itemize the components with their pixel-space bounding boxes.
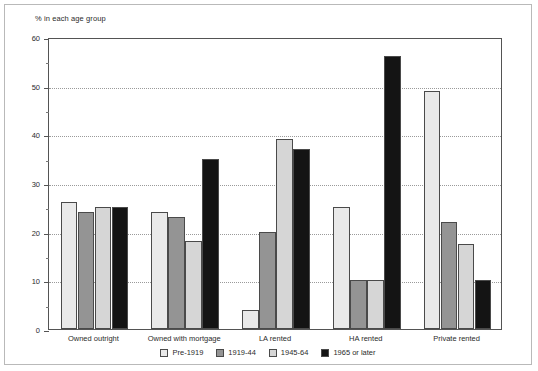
legend-label: 1919-44 <box>228 348 256 357</box>
y-axis-tick <box>44 88 49 89</box>
y-axis-minor-tick <box>46 161 49 162</box>
y-axis-tick <box>44 136 49 137</box>
bar <box>424 91 441 329</box>
y-axis-minor-tick <box>46 209 49 210</box>
legend-item[interactable]: 1965 or later <box>321 348 375 357</box>
bar <box>185 241 202 329</box>
y-axis-tick-label: 50 <box>18 82 40 91</box>
bar <box>350 280 367 329</box>
bar <box>441 222 458 329</box>
bar <box>384 56 401 329</box>
bar <box>276 139 293 329</box>
y-axis-tick <box>44 39 49 40</box>
bar <box>475 280 492 329</box>
y-axis-tick-label: 40 <box>18 131 40 140</box>
y-axis-tick <box>44 185 49 186</box>
y-axis-minor-tick <box>46 307 49 308</box>
bar <box>202 159 219 329</box>
bar <box>78 212 95 329</box>
bar <box>112 207 129 329</box>
x-axis-category-label: Owned outright <box>68 334 119 343</box>
bar <box>61 202 78 329</box>
chart-figure: % in each age group Pre-19191919-441945-… <box>4 4 532 365</box>
y-axis-tick-label: 20 <box>18 228 40 237</box>
y-axis-tick-label: 0 <box>18 326 40 335</box>
bar <box>293 149 310 329</box>
legend-item[interactable]: 1945-64 <box>269 348 309 357</box>
bar <box>95 207 112 329</box>
x-axis-category-label: Private rented <box>433 334 480 343</box>
plot-area <box>48 38 502 330</box>
legend-label: Pre-1919 <box>172 348 203 357</box>
y-axis-tick-label: 30 <box>18 180 40 189</box>
legend-swatch-icon <box>321 349 329 357</box>
legend-label: 1965 or later <box>333 348 375 357</box>
y-axis-tick <box>44 331 49 332</box>
legend-swatch-icon <box>160 349 168 357</box>
bar <box>367 280 384 329</box>
y-axis-minor-tick <box>46 63 49 64</box>
legend-swatch-icon <box>216 349 224 357</box>
bar <box>242 310 259 329</box>
y-axis-tick-label: 10 <box>18 277 40 286</box>
x-axis-category-label: LA rented <box>259 334 291 343</box>
chart-legend: Pre-19191919-441945-641965 or later <box>5 348 531 357</box>
y-axis-title: % in each age group <box>35 14 106 23</box>
legend-label: 1945-64 <box>281 348 309 357</box>
bar <box>333 207 350 329</box>
y-axis-minor-tick <box>46 258 49 259</box>
bar <box>168 217 185 329</box>
y-axis-minor-tick <box>46 112 49 113</box>
y-axis-tick <box>44 234 49 235</box>
y-axis-tick <box>44 282 49 283</box>
y-axis-tick-label: 60 <box>18 34 40 43</box>
legend-item[interactable]: Pre-1919 <box>160 348 203 357</box>
x-axis-category-label: HA rented <box>349 334 382 343</box>
bar <box>458 244 475 329</box>
bar <box>151 212 168 329</box>
bar <box>259 232 276 329</box>
gridline <box>49 88 501 89</box>
x-axis-category-label: Owned with mortgage <box>148 334 221 343</box>
legend-item[interactable]: 1919-44 <box>216 348 256 357</box>
legend-swatch-icon <box>269 349 277 357</box>
